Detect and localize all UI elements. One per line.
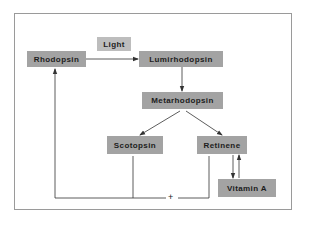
node-lumirhodopsin: Lumirhodopsin [139,51,223,67]
node-retinene: Retinene [197,136,247,154]
node-metarhodopsin: Metarhodopsin [142,92,223,109]
node-scotopsin: Scotopsin [107,136,163,154]
node-vitamin-a: Vitamin A [218,179,276,197]
arrow-metarhodopsin-to-retinene [186,111,222,135]
light-label: Light [97,37,131,51]
arrow-metarhodopsin-to-scotopsin [140,111,180,135]
combine-plus-sign: + [168,192,173,202]
node-rhodopsin: Rhodopsin [27,51,86,67]
